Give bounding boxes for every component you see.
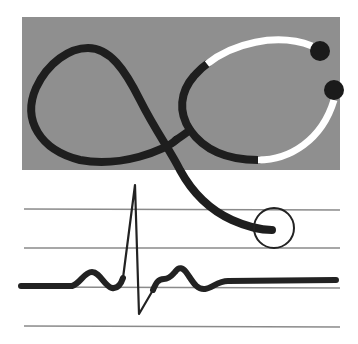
ear-tip-icon <box>310 41 330 61</box>
stethoscope-ecg-logo <box>0 0 358 344</box>
ecg-trace <box>21 185 336 314</box>
ear-tip-icon <box>324 80 344 100</box>
